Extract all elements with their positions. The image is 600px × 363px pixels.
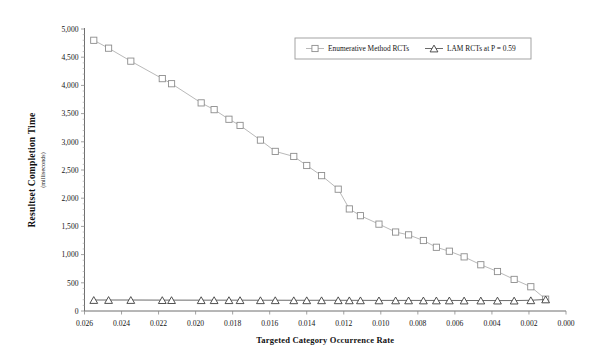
y-tick-label: 4,500 xyxy=(61,53,78,62)
y-tick-label: 4,000 xyxy=(61,81,78,90)
x-tick-label: 0.014 xyxy=(298,319,315,328)
y-tick-label: 1,500 xyxy=(61,222,78,231)
y-tick-label: 0 xyxy=(75,307,79,316)
data-point-marker xyxy=(346,206,352,212)
series-layer xyxy=(90,37,550,304)
x-tick-label: 0.024 xyxy=(113,319,130,328)
data-point-marker xyxy=(446,248,452,254)
y-tick-label: 500 xyxy=(67,279,79,288)
data-point-marker xyxy=(211,107,217,113)
data-point-marker xyxy=(257,137,263,143)
x-tick-label: 0.006 xyxy=(446,319,463,328)
resultset-completion-time-chart: 05001,0001,5002,0002,5003,0003,5004,0004… xyxy=(0,0,600,363)
data-point-marker xyxy=(461,254,467,260)
legend-entry-label: Enumerative Method RCTs xyxy=(328,44,409,53)
data-point-marker xyxy=(304,162,310,168)
y-tick-label: 3,000 xyxy=(61,138,78,147)
x-tick-label: 0.016 xyxy=(261,319,278,328)
data-point-marker xyxy=(393,229,399,235)
x-tick-label: 0.018 xyxy=(224,319,241,328)
data-point-marker xyxy=(357,213,363,219)
legend-entry-label: LAM RCTs at P = 0.59 xyxy=(447,44,516,53)
y-axis-title: Resultset Completion Time xyxy=(27,113,37,228)
x-tick-label: 0.012 xyxy=(335,319,352,328)
data-point-marker xyxy=(528,284,534,290)
data-point-marker xyxy=(128,58,134,64)
data-point-marker xyxy=(405,232,411,238)
x-tick-label: 0.022 xyxy=(150,319,167,328)
data-point-marker xyxy=(237,122,243,128)
chart-container: 05001,0001,5002,0002,5003,0003,5004,0004… xyxy=(0,0,600,363)
y-tick-label: 5,000 xyxy=(61,25,78,34)
data-point-marker xyxy=(318,173,324,179)
y-tick-label: 2,000 xyxy=(61,194,78,203)
data-point-marker xyxy=(91,37,97,43)
data-point-marker xyxy=(291,153,297,159)
x-tick-label: 0.010 xyxy=(372,319,389,328)
legend-marker-square-icon xyxy=(312,45,318,51)
data-point-marker xyxy=(478,262,484,268)
data-point-marker xyxy=(272,148,278,154)
x-tick-label: 0.020 xyxy=(187,319,204,328)
data-point-marker xyxy=(376,221,382,227)
x-tick-label: 0.026 xyxy=(76,319,93,328)
data-point-marker xyxy=(226,116,232,122)
x-tick-label: 0.004 xyxy=(483,319,500,328)
data-point-marker xyxy=(335,186,341,192)
y-tick-label: 2,500 xyxy=(61,166,78,175)
data-point-marker xyxy=(159,76,165,82)
y-tick-label: 3,500 xyxy=(61,109,78,118)
x-tick-label: 0.008 xyxy=(409,319,426,328)
data-point-marker xyxy=(420,237,426,243)
y-axis-subtitle: (milliseconds) xyxy=(40,152,47,188)
data-point-marker xyxy=(494,268,500,274)
y-tick-label: 1,000 xyxy=(61,250,78,259)
labels-layer: Resultset Completion Time(milliseconds)T… xyxy=(27,113,394,345)
data-point-marker xyxy=(198,100,204,106)
data-point-marker xyxy=(511,276,517,282)
x-tick-label: 0.000 xyxy=(557,319,574,328)
data-point-marker xyxy=(105,45,111,51)
x-tick-label: 0.002 xyxy=(520,319,537,328)
data-point-marker xyxy=(168,81,174,87)
legend-layer: Enumerative Method RCTsLAM RCTs at P = 0… xyxy=(295,38,531,59)
data-point-marker xyxy=(433,244,439,250)
x-axis-title: Targeted Category Occurrence Rate xyxy=(256,335,394,345)
